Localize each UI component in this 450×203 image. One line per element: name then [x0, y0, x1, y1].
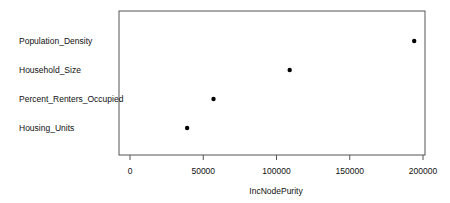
data-point [211, 97, 215, 101]
x-tick-label: 200000 [409, 166, 438, 176]
x-tick-label: 0 [128, 166, 133, 176]
variable-importance-dotchart: Population_DensityHousehold_SizePercent_… [0, 0, 450, 203]
category-label: Population_Density [19, 36, 93, 46]
x-tick-label: 150000 [336, 166, 365, 176]
x-axis-label: IncNodePurity [249, 186, 303, 196]
x-tick-label: 50000 [191, 166, 215, 176]
category-label: Percent_Renters_Occupied [19, 94, 124, 104]
x-tick-label: 100000 [262, 166, 291, 176]
category-label: Housing_Units [19, 123, 74, 133]
data-points [185, 39, 416, 130]
y-axis-labels: Population_DensityHousehold_SizePercent_… [19, 36, 124, 133]
plot-box [119, 11, 425, 155]
data-point [185, 126, 189, 130]
data-point [287, 68, 291, 72]
data-point [412, 39, 416, 43]
x-axis: 050000100000150000200000 [128, 155, 438, 176]
category-label: Household_Size [19, 65, 81, 75]
